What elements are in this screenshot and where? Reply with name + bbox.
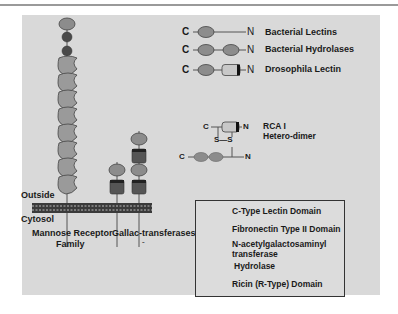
cytosol-label: Cytosol [21,214,54,224]
legend-c-type-lectin: C-Type Lectin Domain [232,206,321,216]
bacterial-lectins-schematic [193,27,246,38]
c-terminus-label: C [182,44,189,55]
rca-label: RCA I [263,121,286,131]
fibronectin-domain-icon [62,46,72,56]
legend-transferase-line2: transferase [232,249,278,259]
hetero-dimer-label: Hetero-dimer [263,131,316,141]
n-terminus-label: N [247,44,254,55]
mannose-receptor-label: Mannose Receptor [32,228,113,238]
legend-ricin: Ricin (R-Type) Domain [232,279,323,289]
c-type-lectin-icon [58,124,77,143]
c-type-lectin-icon [58,90,77,109]
c-type-lectin-icon [58,56,77,75]
legend-fibronectin: Fibronectin Type II Domain [232,224,340,234]
c-type-lectin-icon [58,175,77,194]
legend-transferase: N-acetylgalactosaminyl [232,239,326,249]
c-type-lectin-icon [58,158,77,177]
bacterial-hydrolases-schematic [193,45,246,56]
n-terminus-label: N [247,26,254,37]
legend-hydrolase: Hydrolase [234,261,275,271]
c-terminus-label: C [203,122,209,131]
gallac-dash: - [142,237,145,246]
c-type-lectin-icon [58,107,77,126]
c-type-lectin-icon [58,73,77,92]
n-terminus-label: N [247,64,254,75]
c-type-lectin-icon [58,141,77,160]
mannose-receptor-family-label: Family [56,239,85,249]
bacterial-hydrolases-label: Bacterial Hydrolases [265,44,354,54]
top-border [0,0,398,6]
ricin-domain-icon [109,164,125,176]
ricin-domain-icon [131,164,147,176]
n-terminus-label: N [243,122,249,131]
disulfide-bond-label: S—S [214,135,233,144]
ricin-domain-icon [59,18,75,30]
outside-label: Outside [21,190,55,200]
c-terminus-label: C [179,152,185,161]
c-terminus-label: C [182,64,189,75]
fibronectin-domain-icon [62,32,72,42]
legend-box: C-Type Lectin Domain Fibronectin Type II… [195,200,345,297]
c-terminus-label: C [182,26,189,37]
bacterial-lectins-label: Bacterial Lectins [265,27,337,37]
gallac-transferases-label: Gallac-transferases [112,228,196,238]
n-terminus-label: N [245,152,251,161]
drosophila-lectin-label: Drosophila Lectin [265,64,341,74]
drosophila-lectin-schematic [193,65,246,76]
ricin-domain-icon [131,133,147,145]
membrane [32,203,152,213]
